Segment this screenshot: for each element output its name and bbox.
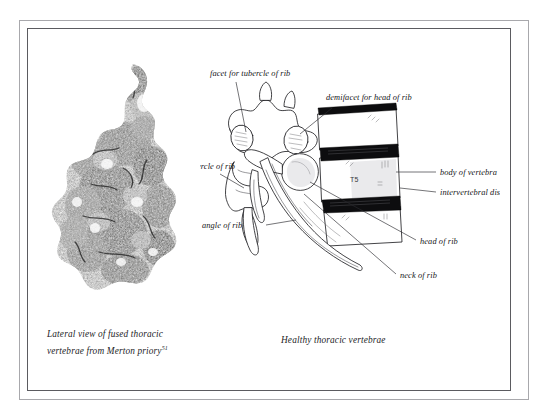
- label-intervertebral-disc: intervertebral disc: [440, 188, 500, 197]
- label-demifacet-for-head-of-rib: demifacet for head of rib: [326, 93, 412, 102]
- right-figure-caption: Healthy thoracic vertebrae: [281, 334, 451, 348]
- vertebra-level-label: T5: [350, 176, 359, 183]
- bone-mass-texture: [47, 56, 195, 296]
- thoracic-vertebrae-illustration: T5 facet for tubercle of rib demifacet f…: [200, 58, 500, 308]
- fused-vertebrae-photograph: [47, 56, 195, 296]
- label-tubercle-of-rib: tubercle of rib: [200, 162, 235, 171]
- left-figure-caption: Lateral view of fused thoracic vertebrae…: [47, 328, 207, 358]
- label-head-of-rib: head of rib: [420, 237, 458, 246]
- caption-left-line1: Lateral view of fused thoracic: [47, 329, 163, 339]
- label-facet-for-tubercle-of-rib: facet for tubercle of rib: [210, 69, 290, 78]
- label-neck-of-rib: neck of rib: [400, 271, 437, 280]
- bone-specimen-image: [47, 56, 195, 296]
- label-angle-of-rib: angle of rib: [202, 221, 242, 230]
- caption-left-line2: vertebrae from Merton priory: [47, 346, 162, 356]
- label-body-of-vertebra: body of vertebra: [440, 168, 497, 177]
- caption-footnote-marker: 51: [162, 345, 168, 351]
